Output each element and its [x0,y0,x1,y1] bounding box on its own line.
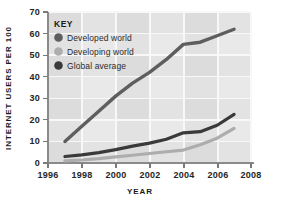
y-tick-label: 20 [30,115,40,125]
x-tick-label: 1998 [72,170,93,180]
x-tick-label: 2008 [241,170,262,180]
chart-svg: 0 10 20 30 40 50 60 70 1996 1998 2000 20… [0,0,281,201]
x-tick-label: 2000 [106,170,127,180]
y-tick-label: 70 [30,7,40,17]
legend-marker-developed-world-icon [54,33,63,42]
legend-label-global-average: Global average [67,61,126,71]
y-axis-tick-labels: 0 10 20 30 40 50 60 70 [30,7,40,168]
y-tick-marks [43,12,48,163]
legend-label-developing-world: Developing world [67,47,134,57]
y-tick-label: 0 [35,158,40,168]
y-tick-label: 40 [30,72,40,82]
x-axis-tick-labels: 1996 1998 2000 2002 2004 2006 2008 [38,170,262,180]
y-axis-title: INTERNET USERS PER 100 [4,26,13,150]
legend-title: KEY [54,19,73,29]
x-tick-label: 2004 [174,170,195,180]
x-tick-label: 1996 [38,170,59,180]
x-tick-marks [48,163,251,168]
y-tick-label: 50 [30,50,40,60]
x-axis-title: YEAR [127,187,153,196]
legend-label-developed-world: Developed world [67,33,132,43]
legend-marker-global-average-icon [54,61,63,70]
y-tick-label: 30 [30,93,40,103]
x-tick-label: 2006 [208,170,229,180]
internet-users-line-chart: 0 10 20 30 40 50 60 70 1996 1998 2000 20… [0,0,281,201]
x-tick-label: 2002 [140,170,161,180]
y-tick-label: 60 [30,29,40,39]
legend-marker-developing-world-icon [54,47,63,56]
y-tick-label: 10 [30,136,40,146]
